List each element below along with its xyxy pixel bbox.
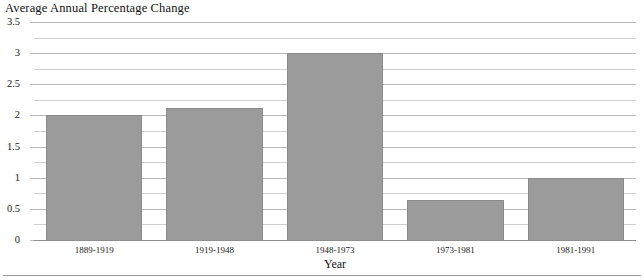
x-axis-tick-label: 1973-1981 [395,244,515,256]
x-axis-title: Year [34,257,636,272]
x-axis-tick-label: 1981-1991 [516,244,636,256]
bar [528,178,624,240]
y-axis-tick-label: 1 [0,173,24,183]
y-axis-tick-label-text: 0.5 [7,204,24,214]
x-axis-tick-labels: 1889-19191919-19481948-19731973-19811981… [34,244,636,258]
y-axis-tick-label-text: 1.5 [7,142,24,152]
y-axis-tick-label-text: 3.5 [7,17,24,27]
x-axis-tick-label: 1919-1948 [154,244,274,256]
y-axis-tick-label-text: 3 [15,48,24,58]
y-axis-tick-label-text: 2.5 [7,79,24,89]
y-axis-tick-label: 0 [0,235,24,245]
x-axis-line [34,240,636,241]
bar [407,200,503,240]
bar-chart-figure: Average Annual Percentage Change 00.511.… [0,0,644,280]
y-axis-tick-label: 2 [0,110,24,120]
y-axis-tick-label: 0.5 [0,204,24,214]
y-axis-tick-label: 3.5 [0,17,24,27]
y-axis-tick-label: 2.5 [0,79,24,89]
y-axis-tick-label: 1.5 [0,142,24,152]
y-axis-tick-label-text: 1 [15,173,24,183]
bar [46,115,142,240]
x-axis-tick-label: 1948-1973 [275,244,395,256]
x-axis-tick-label: 1889-1919 [34,244,154,256]
bar [166,108,262,240]
bar-series [34,22,636,240]
y-axis-tick-label: 3 [0,48,24,58]
plot-area: 00.511.522.533.5 [34,22,636,240]
bottom-horizontal-rule [3,275,641,276]
bar [287,53,383,240]
y-axis-tick-label-text: 2 [15,110,24,120]
y-axis-tick-label-text: 0 [15,235,24,245]
chart-title: Average Annual Percentage Change [5,1,190,16]
